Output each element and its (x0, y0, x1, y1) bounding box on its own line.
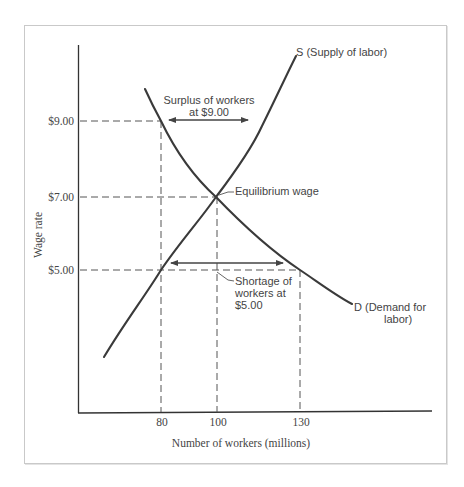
x-axis-title: Number of workers (millions) (172, 437, 310, 450)
shortage-leader (217, 272, 234, 281)
x-tick-100: 100 (209, 416, 227, 428)
labor-market-chart: S (Supply of labor) D (Demand for labor)… (0, 0, 464, 487)
y-axis-title: Wage rate (32, 212, 45, 258)
demand-label-line2: labor) (384, 313, 412, 325)
y-tick-7: $7.00 (48, 191, 74, 203)
surplus-label-line2: at $9.00 (189, 106, 229, 118)
y-tick-9: $9.00 (48, 115, 74, 127)
x-tick-80: 80 (156, 416, 168, 428)
shortage-label-line2: workers at (234, 287, 286, 299)
x-tick-130: 130 (292, 416, 310, 428)
y-tick-5: $5.00 (48, 264, 74, 276)
shortage-label-line3: $5.00 (235, 299, 263, 311)
x-axis (78, 411, 432, 413)
equilibrium-leader (219, 192, 234, 195)
surplus-label-line1: Surplus of workers (163, 94, 255, 106)
shortage-label-line1: Shortage of (235, 275, 293, 287)
supply-label: S (Supply of labor) (296, 46, 387, 58)
demand-label-line1: D (Demand for (354, 301, 426, 313)
equilibrium-label: Equilibrium wage (235, 185, 319, 197)
